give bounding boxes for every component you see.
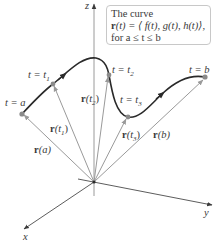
y-axis-label: y bbox=[203, 207, 209, 218]
curve-definition-box: The curve r(t) = ⟨ f(t), g(t), h(t)⟩, fo… bbox=[106, 5, 211, 45]
direction-arrow-1 bbox=[58, 75, 64, 80]
point-t3 bbox=[126, 115, 131, 120]
label-r-t1: r(t1) bbox=[50, 123, 69, 137]
vector-r-b bbox=[94, 80, 203, 182]
label-r-b: r(b) bbox=[153, 129, 170, 141]
label-t-t1: t = t1 bbox=[28, 69, 50, 83]
origin-point bbox=[92, 180, 95, 183]
info-line-1: The curve bbox=[111, 8, 206, 20]
label-r-t2: r(t2) bbox=[81, 93, 100, 107]
point-a bbox=[19, 111, 24, 116]
label-t-t2: t = t2 bbox=[112, 64, 134, 78]
info-line-3: for a ≤ t ≤ b bbox=[111, 32, 206, 44]
point-t1 bbox=[51, 82, 56, 87]
x-axis bbox=[24, 182, 94, 229]
z-axis-label: z bbox=[84, 0, 89, 11]
label-t-t3: t = t3 bbox=[120, 94, 142, 108]
point-t2 bbox=[107, 73, 112, 78]
x-axis-label: x bbox=[22, 231, 28, 242]
point-b bbox=[202, 74, 207, 79]
label-r-a: r(a) bbox=[34, 144, 51, 156]
label-t-a: t = a bbox=[5, 97, 26, 108]
direction-arrow-2 bbox=[156, 94, 162, 99]
info-line-2: r(t) = ⟨ f(t), g(t), h(t)⟩, bbox=[111, 20, 206, 32]
label-t-b: t = b bbox=[189, 64, 210, 75]
y-axis bbox=[78, 179, 212, 205]
